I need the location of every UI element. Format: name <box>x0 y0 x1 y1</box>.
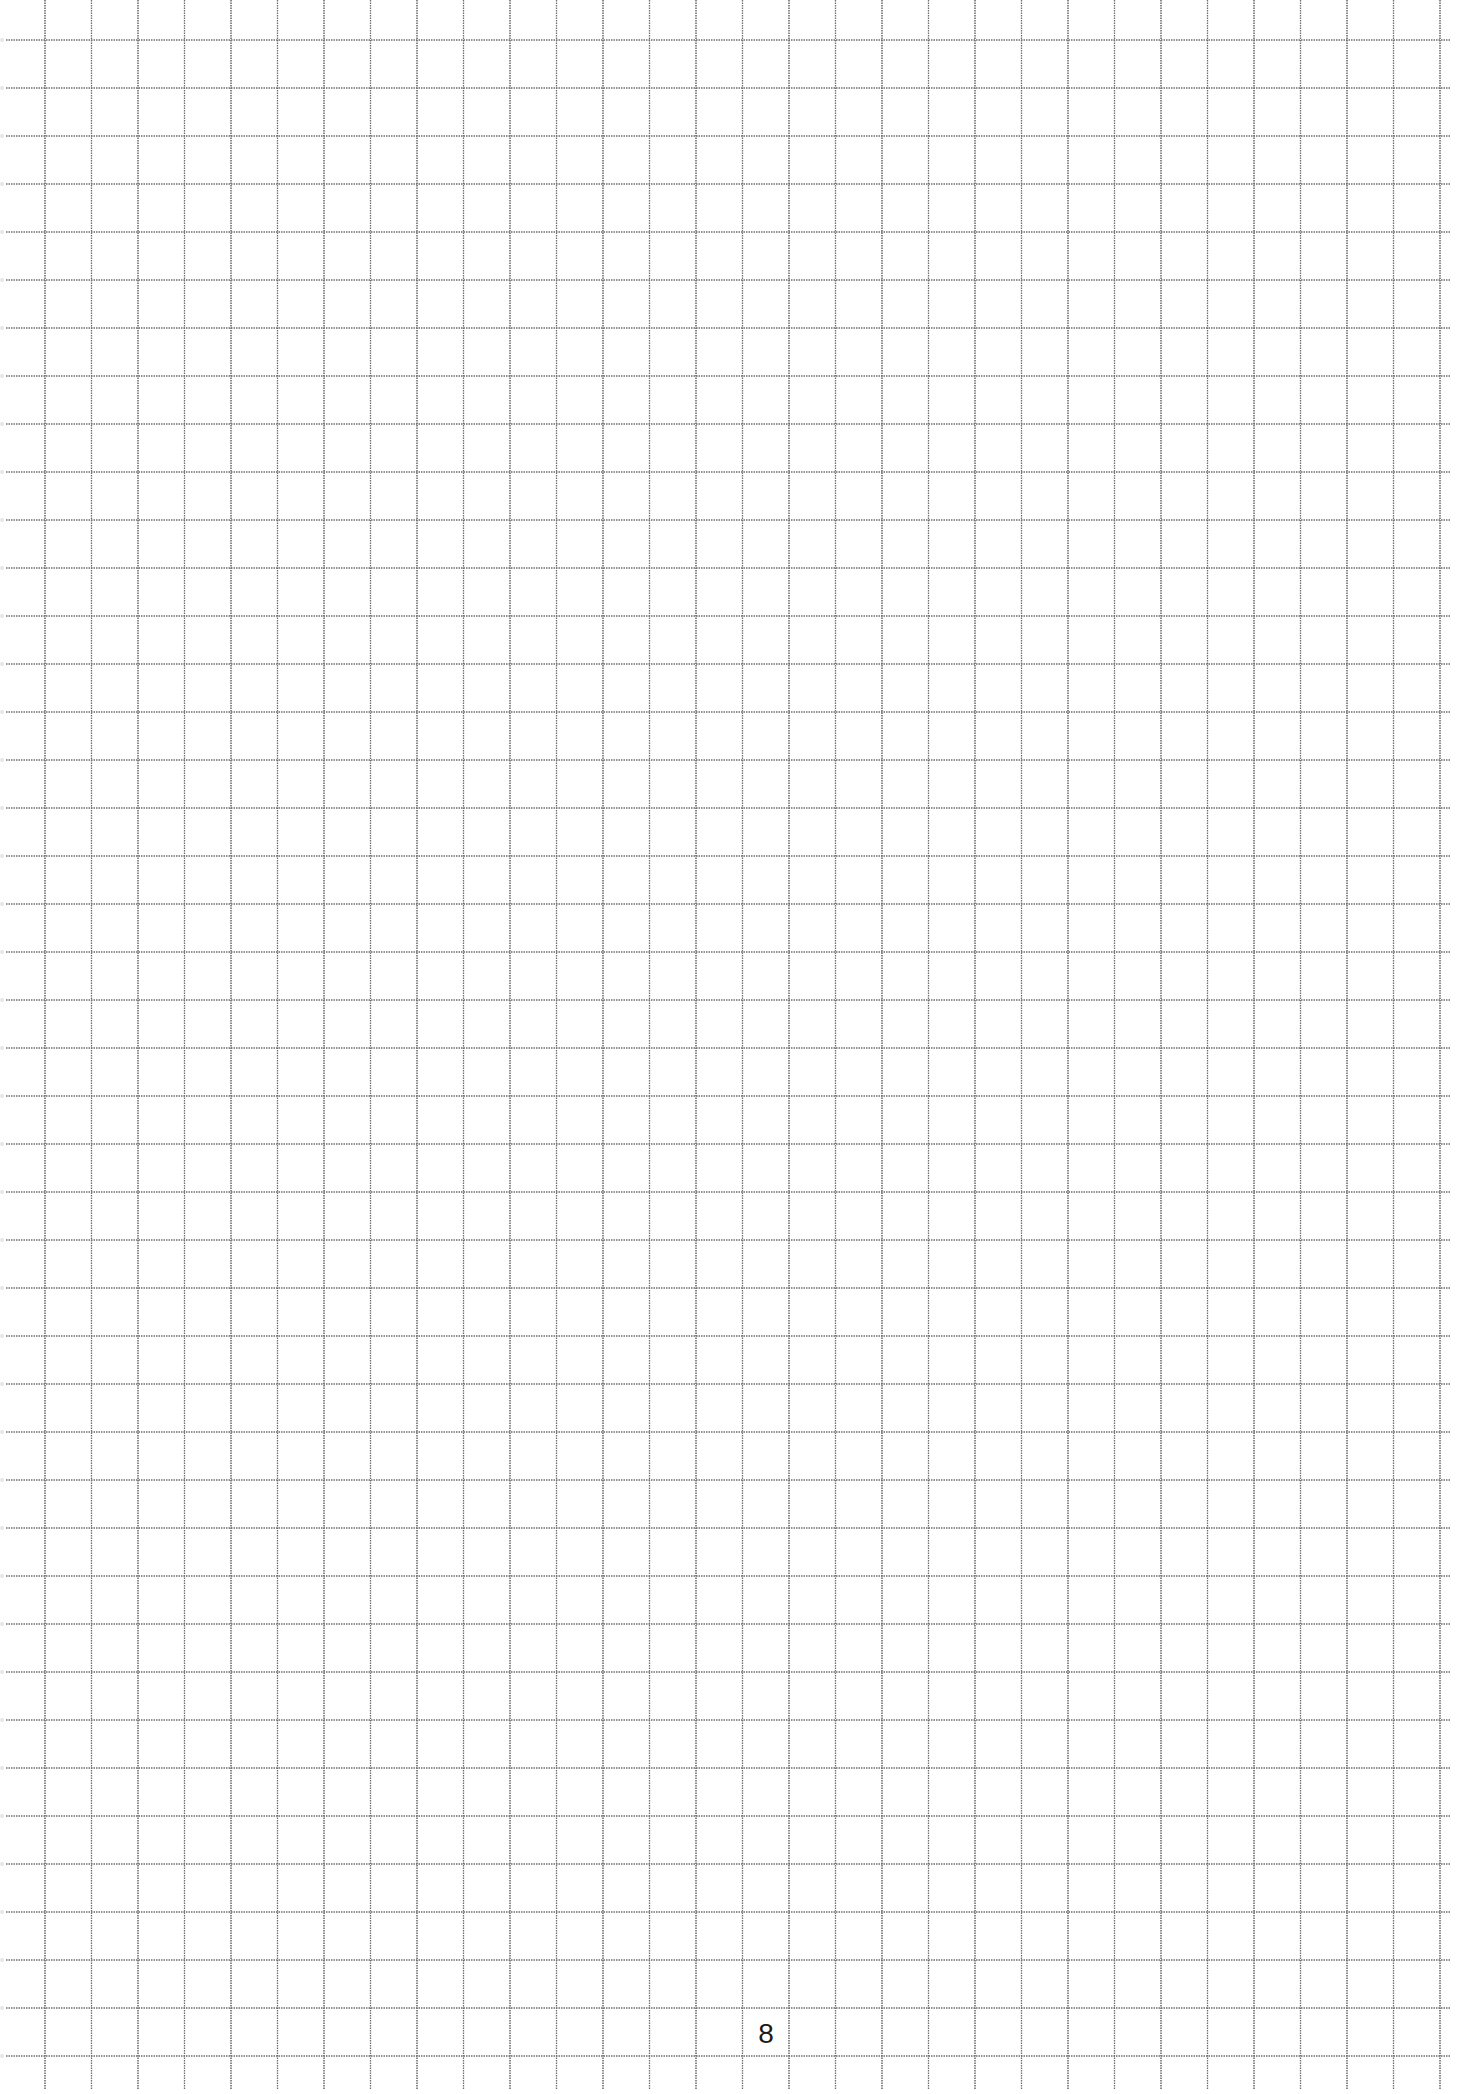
edge-mark <box>0 854 4 858</box>
edge-mark <box>0 614 4 618</box>
edge-mark <box>0 902 4 906</box>
edge-mark <box>0 1622 4 1626</box>
edge-mark <box>0 182 4 186</box>
edge-mark <box>0 1430 4 1434</box>
edge-mark <box>0 326 4 330</box>
edge-mark <box>0 998 4 1002</box>
edge-mark <box>0 662 4 666</box>
edge-mark <box>0 278 4 282</box>
edge-mark <box>0 1478 4 1482</box>
edge-mark <box>0 86 4 90</box>
edge-mark <box>0 1046 4 1050</box>
edge-mark <box>0 1190 4 1194</box>
edge-mark <box>0 1142 4 1146</box>
edge-mark <box>0 1670 4 1674</box>
edge-mark <box>0 710 4 714</box>
edge-mark <box>0 1718 4 1722</box>
grid-lines <box>0 0 1462 2094</box>
edge-mark <box>0 422 4 426</box>
edge-mark <box>0 1526 4 1530</box>
edge-mark <box>0 518 4 522</box>
edge-mark <box>0 1910 4 1914</box>
edge-mark <box>0 470 4 474</box>
edge-mark <box>0 1382 4 1386</box>
edge-mark <box>0 134 4 138</box>
edge-mark <box>0 806 4 810</box>
edge-mark <box>0 1238 4 1242</box>
edge-mark <box>0 1766 4 1770</box>
edge-mark <box>0 1862 4 1866</box>
edge-mark <box>0 1286 4 1290</box>
edge-mark <box>0 2006 4 2010</box>
page-number: 8 <box>754 2018 778 2050</box>
edge-mark <box>0 374 4 378</box>
edge-mark <box>0 38 4 42</box>
grid-paper-page: 8 <box>0 0 1462 2094</box>
edge-mark <box>0 1094 4 1098</box>
edge-mark <box>0 1958 4 1962</box>
edge-mark <box>0 1574 4 1578</box>
edge-mark <box>0 1334 4 1338</box>
edge-mark <box>0 2054 4 2058</box>
edge-mark <box>0 1814 4 1818</box>
edge-mark <box>0 230 4 234</box>
edge-mark <box>0 950 4 954</box>
edge-mark <box>0 566 4 570</box>
edge-mark <box>0 758 4 762</box>
